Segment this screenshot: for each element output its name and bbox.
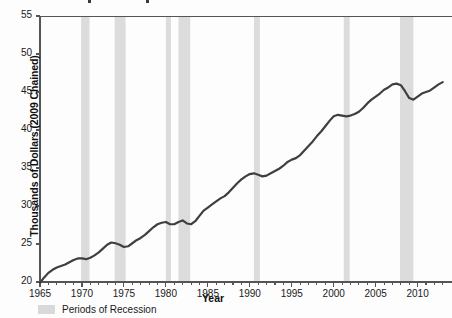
x-tick-label: 1980 xyxy=(146,288,186,299)
y-tick-label: 55 xyxy=(4,9,32,20)
recession-bands xyxy=(81,16,413,282)
recession-band xyxy=(81,16,89,282)
recession-band xyxy=(344,16,350,282)
recession-band xyxy=(400,16,413,282)
y-tick-label: 50 xyxy=(4,47,32,58)
x-tick-label: 2005 xyxy=(356,288,396,299)
y-tick-label: 30 xyxy=(4,199,32,210)
x-tick-label: 1965 xyxy=(20,288,60,299)
legend-label-recession: Periods of Recession xyxy=(62,304,157,315)
recession-band xyxy=(166,16,171,282)
series-line-real-gdp-per-capita xyxy=(40,82,443,283)
y-tick-label: 45 xyxy=(4,85,32,96)
data-line xyxy=(40,82,443,283)
y-tick-label: 25 xyxy=(4,237,32,248)
recession-band xyxy=(115,16,126,282)
axes xyxy=(36,16,452,287)
x-tick-label: 1995 xyxy=(272,288,312,299)
x-tick-label: 1985 xyxy=(188,288,228,299)
x-tick-label: 1975 xyxy=(104,288,144,299)
recession-band-swatch-icon xyxy=(38,305,55,314)
x-tick-label: 2000 xyxy=(314,288,354,299)
plot-area xyxy=(0,0,452,318)
legend: Periods of Recession xyxy=(38,304,157,315)
y-tick-label: 35 xyxy=(4,161,32,172)
x-tick-label: 2010 xyxy=(398,288,438,299)
recession-band xyxy=(254,16,260,282)
x-tick-label: 1990 xyxy=(230,288,270,299)
x-tick-label: 1970 xyxy=(62,288,102,299)
y-tick-label: 20 xyxy=(4,275,32,286)
chart-container: Thousands of Dollars (2009 Chained) Year… xyxy=(0,0,452,318)
recession-band xyxy=(178,16,190,282)
y-tick-label: 40 xyxy=(4,123,32,134)
